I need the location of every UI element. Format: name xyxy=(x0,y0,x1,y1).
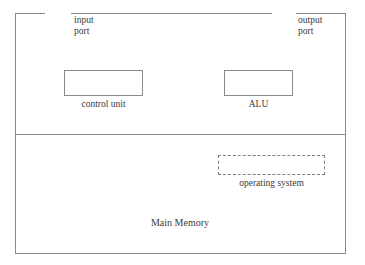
outer-frame-top-border-right-segment xyxy=(296,13,346,14)
operating-system-box xyxy=(218,155,325,175)
outer-frame-bottom-border xyxy=(15,253,346,254)
outer-frame-top-border-left-segment xyxy=(15,13,45,14)
output-port-label-line-1: output xyxy=(298,15,322,26)
input-port-label-line-1: input xyxy=(74,15,94,26)
control-unit-label: control unit xyxy=(64,99,143,110)
input-port-label: input port xyxy=(74,15,94,37)
output-port-label-line-2: port xyxy=(298,26,322,37)
main-memory-label: Main Memory xyxy=(100,217,260,228)
operating-system-label: operating system xyxy=(208,178,335,189)
input-port-label-line-2: port xyxy=(74,26,94,37)
cpu-memory-section-divider xyxy=(15,134,346,135)
output-port-label: output port xyxy=(298,15,322,37)
alu-label: ALU xyxy=(224,99,293,110)
architecture-diagram: input port output port control unit ALU … xyxy=(0,0,365,265)
control-unit-box xyxy=(64,70,143,96)
alu-box xyxy=(224,70,293,96)
outer-frame-top-border-middle-segment xyxy=(71,13,272,14)
